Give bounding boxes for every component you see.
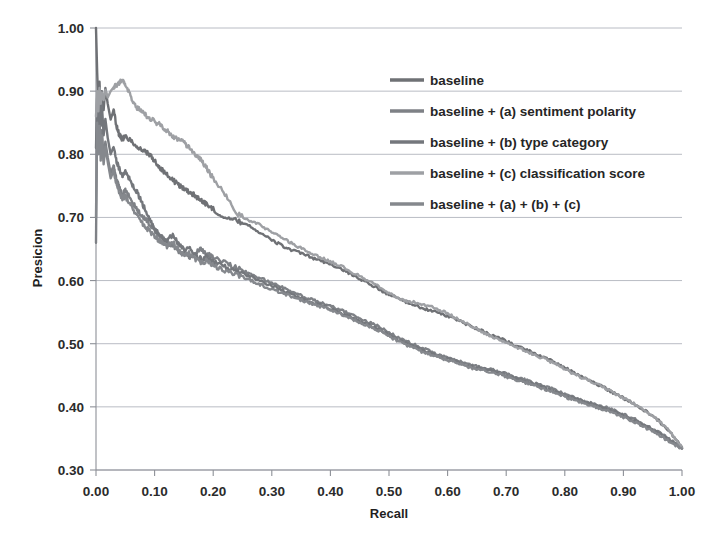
- y-tick-label: 0.80: [58, 147, 84, 162]
- legend-label: baseline + (c) classification score: [430, 166, 645, 181]
- legend-label: baseline + (a) sentiment polarity: [430, 104, 636, 119]
- y-tick-label: 0.60: [58, 274, 84, 289]
- x-tick-label: 0.30: [259, 484, 285, 499]
- y-tick-label: 1.00: [58, 21, 84, 36]
- legend-label: baseline + (a) + (b) + (c): [430, 197, 580, 212]
- x-tick-label: 0.40: [317, 484, 343, 499]
- x-tick-label: 0.00: [83, 484, 109, 499]
- x-tick-label: 0.90: [610, 484, 636, 499]
- y-tick-label: 0.90: [58, 84, 84, 99]
- x-tick-label: 0.60: [434, 484, 460, 499]
- x-axis-title: Recall: [370, 506, 408, 521]
- x-tick-label: 0.10: [141, 484, 167, 499]
- y-tick-label: 0.40: [58, 400, 84, 415]
- legend-label: baseline: [430, 73, 485, 88]
- x-tick-label: 0.70: [493, 484, 519, 499]
- x-tick-label: 0.80: [552, 484, 578, 499]
- x-tick-label: 0.20: [200, 484, 226, 499]
- chart-background: [0, 0, 724, 538]
- y-tick-label: 0.30: [58, 463, 84, 478]
- x-tick-label: 1.00: [669, 484, 695, 499]
- x-tick-label: 0.50: [376, 484, 402, 499]
- y-tick-label: 0.50: [58, 337, 84, 352]
- legend-label: baseline + (b) type category: [430, 135, 609, 150]
- precision-recall-chart: 0.300.400.500.600.700.800.901.00 0.000.1…: [0, 0, 724, 538]
- y-axis-title: Presicion: [30, 229, 45, 288]
- y-tick-label: 0.70: [58, 210, 84, 225]
